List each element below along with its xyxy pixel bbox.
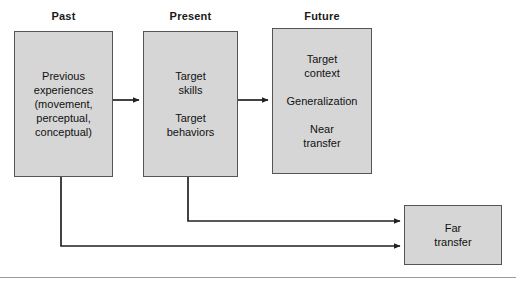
- node-text-line: transfer: [303, 136, 340, 150]
- node-text-line: skills: [175, 83, 206, 97]
- node-text-line: Generalization: [287, 94, 358, 108]
- node-future-paragraph: Near transfer: [303, 122, 340, 150]
- node-present-paragraph: Target behaviors: [167, 111, 215, 139]
- node-past: Previous experiences (movement, perceptu…: [14, 31, 113, 177]
- node-present: Target skills Target behaviors: [143, 31, 238, 177]
- node-future-paragraph: Generalization: [287, 94, 358, 108]
- node-future-paragraph: Target context: [304, 52, 339, 80]
- node-text-line: Far: [434, 221, 471, 235]
- node-text-line: (movement,: [34, 97, 93, 111]
- node-text-line: perceptual,: [34, 111, 93, 125]
- node-text-line: Near: [303, 122, 340, 136]
- node-text-line: transfer: [434, 235, 471, 249]
- node-text-line: experiences: [34, 83, 93, 97]
- node-text-line: context: [304, 66, 339, 80]
- node-far-transfer: Far transfer: [404, 205, 502, 265]
- bottom-divider-rule: [0, 277, 516, 278]
- node-future: Target context Generalization Near trans…: [272, 28, 372, 174]
- node-text-line: behaviors: [167, 125, 215, 139]
- connector-present-to-far-transfer: [188, 177, 400, 221]
- connector-past-to-far-transfer: [61, 177, 400, 246]
- node-text-line: Previous: [34, 69, 93, 83]
- node-text-line: Target: [167, 111, 215, 125]
- node-text-line: Target: [304, 52, 339, 66]
- node-far-transfer-paragraph: Far transfer: [434, 221, 471, 249]
- figure-canvas: Past Present Future Previous experiences…: [0, 0, 516, 286]
- node-present-paragraph: Target skills: [175, 69, 206, 97]
- node-text-line: conceptual): [34, 125, 93, 139]
- node-text-line: Target: [175, 69, 206, 83]
- node-past-paragraph: Previous experiences (movement, perceptu…: [34, 69, 93, 139]
